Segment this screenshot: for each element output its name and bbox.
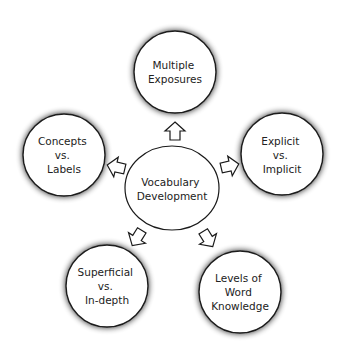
label-line: Explicit [261,135,299,147]
label-line: Concepts [38,135,87,147]
arrow-down-right-icon [195,226,221,252]
arrow-up-icon [165,122,185,140]
node-center-vocabulary-development: Vocabulary Development [125,146,219,230]
node-superficial-vs-in-depth: Superficial vs. In-depth [66,245,148,327]
label-line: Word [225,286,252,298]
label-line: Multiple [152,59,194,71]
label-line: vs. [55,149,70,161]
label-line: Superficial [78,266,133,278]
label-line: Knowledge [211,300,269,312]
arrow-left-icon [105,155,127,179]
node-explicit-vs-implicit: Explicit vs. Implicit [241,113,323,195]
label-line: Labels [47,163,81,175]
label-line: In-depth [85,294,129,306]
center-ellipse [125,146,219,230]
vocabulary-development-diagram: Multiple Exposures Explicit vs. Implicit… [0,0,341,344]
node-levels-of-word-knowledge: Levels of Word Knowledge [199,251,281,333]
label-line: Development [137,190,208,202]
arrow-right-icon [219,154,241,178]
node-circle [134,31,216,113]
label-line: Levels of [215,272,262,284]
arrow-down-left-icon [124,225,150,251]
label-line: Exposures [148,73,202,85]
node-concepts-vs-labels: Concepts vs. Labels [23,114,105,196]
label-line: Implicit [263,163,302,175]
node-multiple-exposures: Multiple Exposures [134,31,216,113]
label-line: vs. [98,280,113,292]
label-line: vs. [273,149,288,161]
label-line: Vocabulary [141,176,199,188]
